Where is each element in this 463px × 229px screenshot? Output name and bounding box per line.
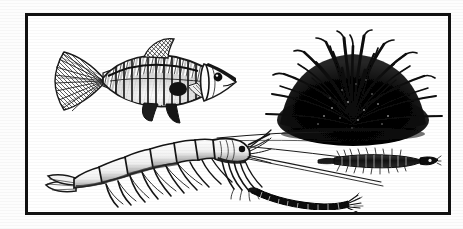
illustration-figure: Mosquitofish Aquatic plant clump Freshwa… [0,0,463,229]
plate-frame [25,13,451,215]
shrimp-carapace [213,134,270,164]
aquatic-plant-illustration [260,24,446,150]
fish-head [201,63,236,101]
shrimp-antennae-illustration [213,126,393,201]
fish-eye [214,73,223,82]
fish-caudal-fin [55,52,105,111]
fish-pectoral-fin [188,83,208,98]
mosquito-larva-lower-illustration [246,182,368,214]
fish-body [103,53,224,107]
shrimp-abdomen [74,139,216,188]
fish-pelvic-fin [142,103,158,121]
larva-upper-eye [428,159,431,162]
shrimp-antennule-base [248,130,271,163]
shrimp-eye [239,146,245,152]
shrimp-legs [222,161,262,201]
mosquito-larva-upper-illustration [316,144,441,178]
shrimp-tail-fan [46,175,78,192]
fish-anal-fin [166,104,180,123]
shrimp-illustration [36,121,271,216]
shrimp-pleopods [106,159,232,207]
fish-dorsal-fin [144,39,174,58]
mosquitofish-illustration [48,31,238,126]
